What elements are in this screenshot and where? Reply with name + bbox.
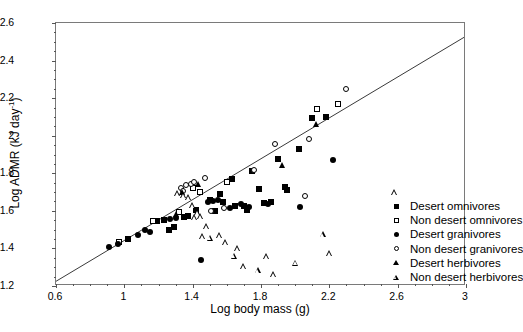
data-point [240, 263, 246, 269]
legend-item-label: Non desert granivores [410, 243, 523, 255]
y-tick-mark [52, 248, 56, 249]
legend-item-filled-triangle[interactable]: Desert herbivores [388, 256, 523, 270]
y-tick-mark-minor [54, 79, 56, 80]
open-triangle-icon [388, 275, 404, 280]
data-point [221, 205, 227, 211]
y-tick-mark-minor [54, 51, 56, 52]
y-tick-mark [52, 61, 56, 62]
y-axis-title-text: Log ADMR (kJ day [8, 109, 22, 209]
y-tick-mark [52, 23, 56, 24]
x-tick-mark [124, 284, 125, 288]
data-point [150, 218, 156, 224]
data-point [302, 193, 308, 199]
data-point [297, 204, 303, 210]
data-point [234, 245, 240, 251]
data-point [197, 213, 203, 219]
x-tick-label: 2.2 [321, 290, 336, 302]
data-point [330, 157, 336, 163]
y-tick-mark-minor [54, 117, 56, 118]
data-point [343, 86, 349, 92]
y-tick-label: 1.2 [0, 279, 14, 291]
x-tick-mark-minor [278, 284, 279, 286]
y-tick-label: 2.6 [0, 16, 14, 28]
x-tick-mark [466, 284, 467, 288]
y-axis-title: Log ADMR (kJ day-1) [7, 97, 22, 208]
data-point [198, 257, 204, 263]
legend-item-label: Non desert herbivores [410, 271, 523, 283]
x-tick-mark [329, 284, 330, 288]
y-tick-mark-minor [54, 230, 56, 231]
data-point [207, 235, 213, 241]
y-tick-mark-minor [54, 183, 56, 184]
plot-frame: Desert omnivoresNon desert omnivoresDese… [55, 22, 465, 285]
data-point [222, 239, 228, 245]
x-tick-mark-minor [244, 284, 245, 286]
y-tick-mark-minor [54, 258, 56, 259]
data-point [106, 244, 112, 250]
x-tick-mark-minor [159, 284, 160, 286]
data-point [227, 205, 233, 211]
x-tick-mark-minor [73, 284, 74, 286]
data-point [125, 236, 131, 242]
data-point [166, 227, 172, 233]
y-tick-mark-minor [54, 89, 56, 90]
data-point [335, 101, 341, 107]
data-point [185, 194, 191, 200]
legend-item-open-triangle[interactable]: Non desert herbivores [388, 270, 523, 284]
x-tick-mark [261, 284, 262, 288]
data-point [309, 115, 315, 121]
x-tick-label: 3 [462, 290, 468, 302]
data-point [284, 187, 290, 193]
x-tick-mark [398, 284, 399, 288]
x-tick-mark [193, 284, 194, 288]
x-tick-label: 0.6 [48, 290, 63, 302]
y-tick-label: 1.4 [0, 241, 14, 253]
y-tick-label: 2.4 [0, 54, 14, 66]
x-tick-label: 1.4 [184, 290, 199, 302]
y-axis-title-exponent: -1 [7, 101, 16, 108]
legend: Desert omnivoresNon desert omnivoresDese… [388, 199, 523, 284]
legend-item-filled-circle[interactable]: Desert granivores [388, 227, 523, 241]
x-tick-label: 2.6 [389, 290, 404, 302]
data-point [323, 114, 329, 120]
data-point [203, 223, 209, 229]
data-point [215, 197, 221, 203]
x-tick-mark-minor [295, 284, 296, 286]
data-point [314, 106, 320, 112]
y-tick-mark-minor [54, 70, 56, 71]
legend-item-filled-square[interactable]: Desert omnivores [388, 199, 523, 213]
x-tick-mark-minor [415, 284, 416, 286]
data-point [296, 146, 302, 152]
data-point [115, 241, 121, 247]
data-point [161, 217, 167, 223]
y-tick-mark [52, 173, 56, 174]
x-tick-mark-minor [227, 284, 228, 286]
y-tick-mark-minor [54, 192, 56, 193]
x-tick-mark-minor [381, 284, 382, 286]
data-point [199, 233, 205, 239]
data-point [279, 162, 285, 168]
data-point [238, 201, 244, 207]
legend-item-label: Desert omnivores [410, 200, 500, 212]
data-point [216, 232, 222, 238]
x-tick-mark-minor [312, 284, 313, 286]
y-tick-mark-minor [54, 108, 56, 109]
x-tick-mark [56, 284, 57, 288]
y-tick-mark-minor [54, 145, 56, 146]
data-point [147, 229, 153, 235]
data-point [255, 267, 261, 273]
y-tick-mark-minor [54, 201, 56, 202]
data-point [320, 231, 326, 237]
filled-square-icon [388, 204, 404, 209]
legend-item-label: Non desert omnivores [410, 214, 523, 226]
data-point [246, 204, 252, 210]
data-point [326, 250, 332, 256]
data-point [251, 167, 257, 173]
legend-item-label: Desert granivores [410, 228, 501, 240]
x-axis-title: Log body mass (g) [210, 302, 309, 316]
legend-item-open-circle[interactable]: Non desert granivores [388, 242, 523, 256]
legend-item-open-square[interactable]: Non desert omnivores [388, 213, 523, 227]
y-tick-mark-minor [54, 126, 56, 127]
data-point [135, 232, 141, 238]
